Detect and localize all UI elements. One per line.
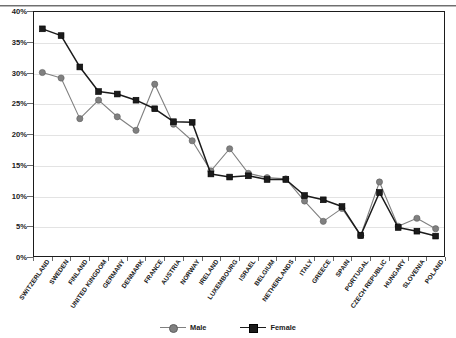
data-point-male-10 xyxy=(227,146,233,152)
data-point-female-10 xyxy=(227,174,233,180)
y-axis-tick-label: 25% xyxy=(12,99,27,108)
data-point-female-1 xyxy=(58,33,64,39)
data-point-male-4 xyxy=(114,114,120,120)
data-point-female-16 xyxy=(339,204,345,210)
data-point-female-15 xyxy=(320,197,326,203)
legend-square-icon xyxy=(249,324,258,333)
data-point-female-13 xyxy=(283,177,289,183)
y-axis-tick-label: 20% xyxy=(12,130,27,139)
data-point-female-9 xyxy=(208,171,214,177)
legend-item-female[interactable]: Female xyxy=(240,323,295,332)
data-point-female-14 xyxy=(302,193,308,199)
legend-swatch xyxy=(240,323,266,331)
x-axis-label: SPAIN xyxy=(334,258,351,278)
chart-legend: MaleFemale xyxy=(0,320,456,334)
data-point-female-19 xyxy=(395,225,401,231)
data-point-female-2 xyxy=(77,64,83,70)
y-axis-tick-label: 30% xyxy=(12,68,27,77)
data-point-female-3 xyxy=(96,89,102,95)
data-point-female-11 xyxy=(245,173,251,179)
x-axis-label: POLAND xyxy=(423,258,445,285)
x-axis-label: ITALY xyxy=(297,258,313,277)
series-line-male xyxy=(42,73,435,236)
data-point-male-1 xyxy=(58,75,64,81)
y-axis-tick-label: 5% xyxy=(16,222,27,231)
data-point-male-0 xyxy=(39,69,45,75)
data-point-male-18 xyxy=(376,179,382,185)
y-axis-tick-label: 10% xyxy=(12,191,27,200)
legend-label: Female xyxy=(270,323,295,332)
x-axis-labels: SWITZERLANDSWEDENFINLANDUNITED KINGDOMGE… xyxy=(0,258,456,320)
data-point-male-20 xyxy=(414,215,420,221)
data-point-male-14 xyxy=(301,198,307,204)
x-axis-label: ISRAEL xyxy=(238,258,258,282)
series-line-female xyxy=(42,29,435,236)
y-axis-tick-label: 35% xyxy=(12,37,27,46)
chart-title-cropped xyxy=(0,0,456,4)
data-point-female-7 xyxy=(171,119,177,125)
data-point-female-8 xyxy=(189,119,195,125)
data-point-male-2 xyxy=(77,116,83,122)
data-point-male-3 xyxy=(95,97,101,103)
data-point-male-8 xyxy=(189,138,195,144)
series-layer xyxy=(33,11,445,257)
data-point-male-6 xyxy=(152,81,158,87)
y-axis: 0%5%10%15%20%25%30%35%40% xyxy=(0,11,31,257)
data-point-male-5 xyxy=(133,127,139,133)
data-point-male-21 xyxy=(433,226,439,232)
chart-page: 0%5%10%15%20%25%30%35%40% SWITZERLANDSWE… xyxy=(0,0,456,338)
header-rule-light xyxy=(0,6,456,7)
x-axis-label: SWITZERLAND xyxy=(18,258,51,301)
data-point-female-18 xyxy=(377,190,383,196)
legend-label: Male xyxy=(190,323,206,332)
legend-item-male[interactable]: Male xyxy=(160,323,206,332)
data-point-female-0 xyxy=(39,26,45,32)
y-axis-tick-label: 15% xyxy=(12,160,27,169)
y-axis-tick-label: 40% xyxy=(12,7,27,16)
data-point-female-12 xyxy=(264,177,270,183)
data-point-male-15 xyxy=(320,218,326,224)
legend-circle-icon xyxy=(169,324,178,333)
data-point-female-5 xyxy=(133,97,139,103)
data-point-female-21 xyxy=(433,233,439,239)
data-point-female-17 xyxy=(358,233,364,239)
data-point-female-4 xyxy=(114,91,120,97)
data-point-female-20 xyxy=(414,228,420,234)
legend-swatch xyxy=(160,323,186,331)
data-point-female-6 xyxy=(152,106,158,112)
